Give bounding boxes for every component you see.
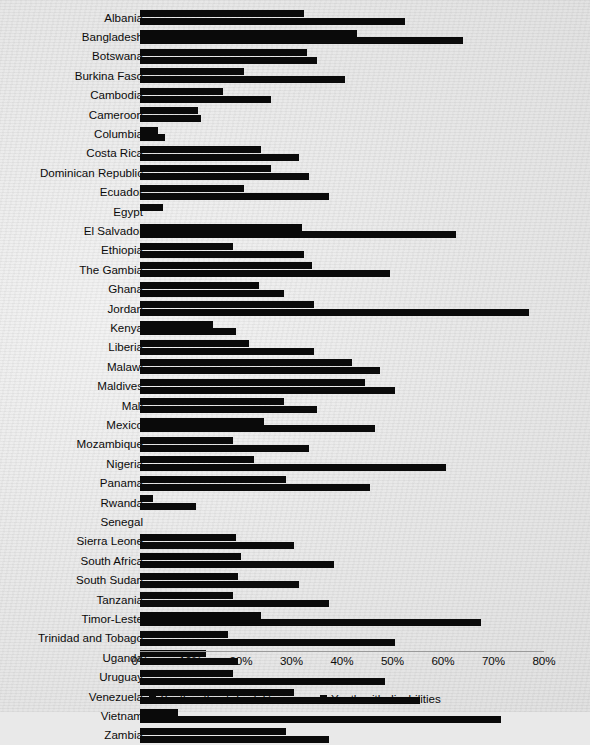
bar-with-disabilities [140,251,304,258]
bar-row: Vietnam [0,706,590,725]
category-label: Nigeria [106,458,143,470]
bar-group [140,474,580,493]
bar-row: Mexico [0,415,590,434]
bar-without-disabilities [140,321,213,328]
bar-with-disabilities [140,716,501,723]
bar-row: Jordan [0,299,590,318]
legend-label: Youth with disabilities [331,692,441,705]
bar-group [140,318,580,337]
bar-group [140,415,580,434]
bar-row: Liberia [0,338,590,357]
legend-item[interactable]: Youth without disabilities [149,692,286,705]
bar-with-disabilities [140,445,309,452]
category-label: Mozambique [77,439,143,451]
category-label: Trinidad and Tobago [38,633,143,645]
bar-without-disabilities [140,68,244,75]
category-label: Costa Rica [86,148,143,160]
bar-row: Timor-Leste [0,609,590,628]
bar-without-disabilities [140,612,261,619]
bar-row: Columbia [0,124,590,143]
x-tick-label: 70% [482,654,505,667]
bar-without-disabilities [140,107,198,114]
bar-without-disabilities [140,476,286,483]
bar-with-disabilities [140,328,236,335]
bar-without-disabilities [140,262,312,269]
bar-without-disabilities [140,592,233,599]
category-label: Maldives [97,380,143,392]
category-label: Tanzania [97,594,143,606]
legend-item[interactable]: Youth with disabilities [320,692,441,705]
bar-without-disabilities [140,49,307,56]
bar-with-disabilities [140,57,317,64]
category-label: Timor-Leste [82,613,143,625]
bar-row: Trinidad and Tobago [0,629,590,648]
bar-group [140,454,580,473]
bar-with-disabilities [140,37,463,44]
category-label: Zambia [104,730,143,742]
bar-with-disabilities [140,619,481,626]
bar-group [140,551,580,570]
category-label: South Africa [80,555,143,567]
bar-row: Malawi [0,357,590,376]
bar-row: Senegal [0,512,590,531]
bar-group [140,706,580,725]
x-tick-label: 0% [132,654,149,667]
chart-legend: Youth without disabilitiesYouth with dis… [0,688,590,708]
category-label: The Gambia [79,264,143,276]
category-label: Ethiopia [101,245,143,257]
bar-group [140,8,580,27]
bar-without-disabilities [140,709,178,716]
bar-row: Albania [0,8,590,27]
bar-group [140,144,580,163]
legend-swatch-icon [320,695,327,702]
bar-group [140,299,580,318]
bar-without-disabilities [140,456,254,463]
bar-without-disabilities [140,224,302,231]
bar-with-disabilities [140,678,385,685]
bar-row: Mali [0,396,590,415]
bar-with-disabilities [140,309,529,316]
bar-row: Zambia [0,726,590,745]
bar-group [140,590,580,609]
bar-without-disabilities [140,495,153,502]
bar-row: Costa Rica [0,144,590,163]
category-label: Senegal [100,516,143,528]
x-tick-label: 20% [229,654,252,667]
category-label: South Sudan [76,574,143,586]
bar-row: Kenya [0,318,590,337]
bar-without-disabilities [140,728,286,735]
bar-row: Maldives [0,377,590,396]
bar-row: Tanzania [0,590,590,609]
bar-group [140,163,580,182]
bar-with-disabilities [140,193,329,200]
x-tick-label: 10% [179,654,202,667]
bar-with-disabilities [140,484,370,491]
x-tick-label: 80% [532,654,555,667]
bar-with-disabilities [140,561,334,568]
bar-group [140,532,580,551]
bar-without-disabilities [140,30,357,37]
bar-group [140,280,580,299]
bar-with-disabilities [140,348,314,355]
bar-group [140,86,580,105]
bar-row: Nigeria [0,454,590,473]
bar-without-disabilities [140,631,228,638]
bar-without-disabilities [140,243,233,250]
category-label: Albania [104,12,143,24]
bar-with-disabilities [140,425,375,432]
category-label: Botswana [92,51,143,63]
bar-with-disabilities [140,96,271,103]
category-label: Rwanda [100,497,143,509]
category-label: Dominican Republic [40,167,143,179]
bar-without-disabilities [140,398,284,405]
category-label: Kenya [110,322,143,334]
legend-swatch-icon [149,695,156,702]
category-label: Ghana [108,283,143,295]
legend-label: Youth without disabilities [160,692,286,705]
bar-row: Ghana [0,280,590,299]
bar-with-disabilities [140,503,196,510]
bar-without-disabilities [140,379,365,386]
bar-with-disabilities [140,387,395,394]
bar-with-disabilities [140,736,329,743]
